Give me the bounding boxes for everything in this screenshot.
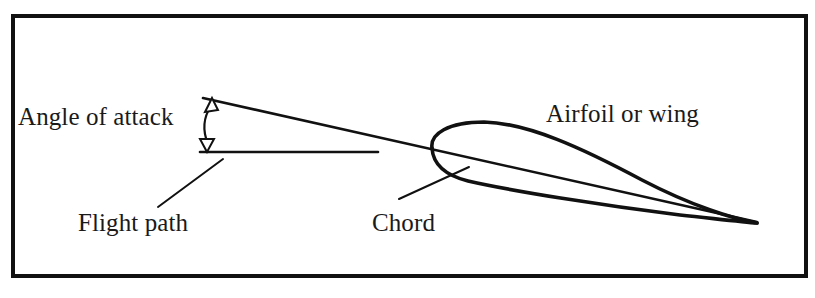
airfoil-upper-surface xyxy=(432,122,757,223)
label-angle-of-attack: Angle of attack xyxy=(18,103,174,130)
flight-path-leader-line xyxy=(158,159,223,207)
label-airfoil-or-wing: Airfoil or wing xyxy=(546,100,699,127)
diagram-canvas: Angle of attack Flight path Chord Airfoi… xyxy=(0,0,815,298)
angle-arc-arrowhead-bottom xyxy=(200,139,214,152)
figure-border xyxy=(13,16,806,276)
airfoil-diagram-figure: Angle of attack Flight path Chord Airfoi… xyxy=(0,0,815,298)
label-chord: Chord xyxy=(372,209,435,236)
label-flight-path: Flight path xyxy=(78,209,189,236)
chord-leader-line xyxy=(399,167,469,199)
